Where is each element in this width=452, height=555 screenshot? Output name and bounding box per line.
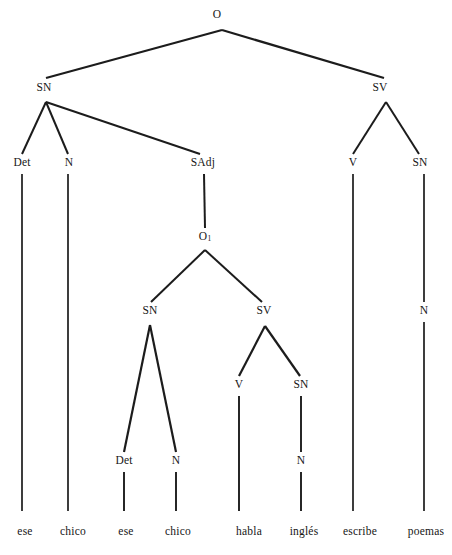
tree-node-sv-top: SV	[370, 82, 389, 94]
tree-terminal-word: chico	[58, 526, 88, 538]
tree-node-subscript: 1	[207, 234, 211, 243]
tree-edge-snmid-to-det	[124, 325, 150, 452]
tree-edge-snmid-to-n	[150, 325, 176, 452]
tree-edge-sn-to-det	[22, 102, 46, 154]
tree-terminal-word: escribe	[341, 526, 379, 538]
tree-node-n-top: N	[63, 157, 76, 169]
tree-node-sn-inner: SN	[291, 379, 310, 391]
tree-edge-o1-to-sv	[205, 250, 262, 302]
tree-edge-sn-to-n	[46, 102, 68, 154]
tree-terminal-word: inglés	[288, 526, 321, 538]
tree-edge-svmid-to-v	[239, 326, 265, 376]
tree-node-det-mid: Det	[113, 455, 134, 467]
tree-terminal-word: ese	[15, 526, 34, 538]
tree-terminal-word: habla	[234, 526, 264, 538]
tree-node-o-sub: O1	[197, 231, 213, 243]
tree-node-sv-mid: SV	[254, 305, 273, 317]
tree-edge-root-to-sv	[222, 30, 384, 78]
tree-node-sn-top: SN	[34, 82, 53, 94]
tree-node-v-mid: V	[233, 379, 246, 391]
tree-terminal-word: ese	[116, 526, 135, 538]
tree-edge-root-to-sn	[46, 30, 222, 78]
tree-node-v-top: V	[347, 157, 360, 169]
tree-node-n-right: N	[418, 305, 431, 317]
tree-edge-sv-to-v	[353, 102, 386, 154]
tree-node-det-top: Det	[11, 157, 32, 169]
tree-terminal-word: chico	[163, 526, 193, 538]
tree-node-sadj: SAdj	[189, 157, 217, 169]
tree-edge-svmid-to-sn	[265, 326, 300, 376]
tree-edge-o1-to-sn	[151, 250, 205, 302]
tree-node-n-mid: N	[170, 455, 183, 467]
tree-edge-sadj-to-o1	[204, 174, 205, 228]
tree-edge-sn-to-sadj	[46, 102, 200, 154]
tree-node-sn-right: SN	[410, 157, 429, 169]
tree-node-sn-mid: SN	[140, 305, 159, 317]
tree-edge-sv-to-sn	[386, 102, 419, 154]
tree-node-n-inner: N	[295, 455, 308, 467]
tree-terminal-word: poemas	[406, 526, 446, 538]
tree-node-root: O	[211, 9, 224, 21]
